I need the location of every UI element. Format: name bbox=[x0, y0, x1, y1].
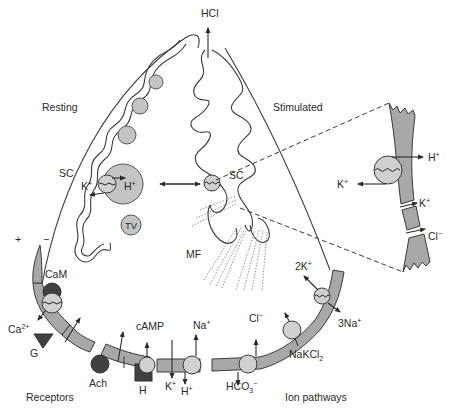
ach-label: Ach bbox=[89, 377, 107, 389]
hcl-label: HCl bbox=[201, 7, 219, 19]
stimulated-label: Stimulated bbox=[273, 101, 323, 113]
nakcl2-arrow bbox=[285, 313, 289, 321]
sc-label-left: SC bbox=[59, 167, 74, 179]
hco3-label: HCO3− bbox=[226, 380, 257, 394]
resting-k-label: K+ bbox=[81, 180, 92, 192]
h-ligand-label: H bbox=[139, 384, 147, 396]
receptors-title: Receptors bbox=[26, 391, 74, 403]
inset-k-pump-label: K+ bbox=[337, 178, 348, 190]
cam-label: CaM bbox=[45, 268, 67, 280]
plus-sign: + bbox=[15, 233, 21, 245]
g-label: G bbox=[30, 347, 38, 359]
vesicle-1 bbox=[149, 75, 163, 89]
acetylcholine-ligand bbox=[91, 355, 109, 373]
2k-in-arrow bbox=[304, 276, 318, 290]
na-in-label: Na+ bbox=[193, 319, 211, 331]
h-out-label: H+ bbox=[181, 385, 193, 397]
camp-receptor bbox=[139, 357, 155, 373]
na-h-exchanger bbox=[183, 356, 201, 374]
mf-label: MF bbox=[186, 248, 201, 260]
nakcl2-cotransporter bbox=[283, 321, 301, 339]
tv-label: TV bbox=[125, 220, 138, 231]
inset-h-label: H+ bbox=[428, 151, 440, 163]
3na-label: 3Na+ bbox=[338, 317, 361, 329]
inset-hk-atpase bbox=[374, 156, 402, 184]
k-out-label: K+ bbox=[165, 380, 176, 392]
ca-label: Ca2+ bbox=[8, 323, 29, 335]
vesicle-2 bbox=[132, 98, 148, 114]
inset-membrane bbox=[389, 103, 430, 272]
camp-label: cAMP bbox=[136, 320, 164, 332]
ion-pathways-title: Ion pathways bbox=[285, 391, 347, 403]
sc-label-right: SC bbox=[229, 169, 244, 181]
parietal-cell-diagram: HCl Resting Stimulated SC SC TV MF K+ H+… bbox=[0, 0, 452, 413]
gastrin-ligand bbox=[34, 334, 53, 348]
2k-label: 2K+ bbox=[295, 260, 312, 272]
nakcl2-label: NaKCl2 bbox=[289, 348, 323, 362]
minus-sign: − bbox=[43, 233, 49, 245]
inset-cl-label: Cl− bbox=[428, 230, 442, 242]
cl-hco3-exchanger bbox=[239, 355, 257, 373]
inset-k-channel-label: K+ bbox=[419, 197, 430, 209]
stimulated-canaliculus bbox=[191, 50, 269, 243]
cl-basal-label: Cl− bbox=[249, 312, 263, 324]
vesicle-3 bbox=[118, 126, 136, 144]
resting-label: Resting bbox=[42, 101, 78, 113]
